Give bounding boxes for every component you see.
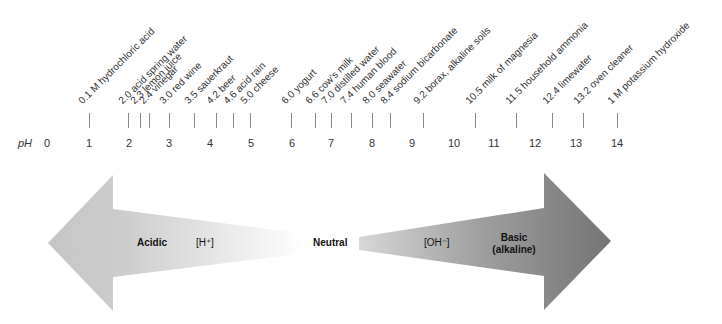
neutral-label: Neutral (313, 237, 347, 249)
oh-ion-label: [OH⁻] (424, 237, 450, 249)
basic-label-line2: (alkaline) (484, 244, 544, 256)
basic-label: Basic (alkaline) (484, 232, 544, 256)
h-ion-label: [H⁺] (196, 237, 214, 249)
acid-base-arrows (0, 0, 722, 324)
acidic-arrow (48, 175, 305, 311)
acidic-label: Acidic (137, 237, 167, 249)
basic-label-line1: Basic (484, 232, 544, 244)
